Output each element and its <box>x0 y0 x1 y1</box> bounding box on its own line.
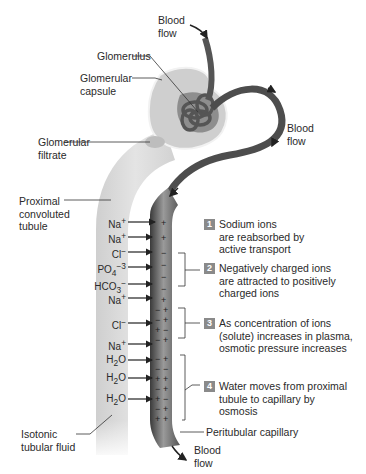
svg-text:+: + <box>161 233 166 243</box>
svg-text:−: − <box>155 404 160 414</box>
svg-text:+: + <box>163 354 168 364</box>
label-peritubular-capillary: Peritubular capillary <box>206 426 298 439</box>
svg-text:+: + <box>155 394 160 404</box>
step-2: 2Negatively charged ions are attracted t… <box>204 262 336 300</box>
svg-text:−: − <box>163 325 168 335</box>
step-text: Negatively charged ions are attracted to… <box>219 262 336 300</box>
step-text: As concentration of ions (solute) increa… <box>219 317 353 355</box>
svg-text:−: − <box>161 248 166 258</box>
ion-h2o: H2O <box>86 372 126 387</box>
step-1: 1Sodium ions are reabsorbed by active tr… <box>204 218 304 256</box>
svg-text:−: − <box>155 315 160 325</box>
svg-text:−: − <box>155 384 160 394</box>
svg-text:+: + <box>163 305 168 315</box>
ion-na: Na+ <box>86 216 126 230</box>
step-text: Water moves from proximal tubule to capi… <box>219 380 347 418</box>
label-glomerular-filtrate: Glomerular filtrate <box>38 136 90 161</box>
label-glomerular-capsule: Glomerular capsule <box>80 72 132 97</box>
ion-h2o: H2O <box>86 393 126 408</box>
svg-text:−: − <box>163 364 168 374</box>
label-proximal-tubule: Proximal convoluted tubule <box>19 195 70 233</box>
ion-na: Na+ <box>86 338 126 352</box>
svg-text:−: − <box>163 394 168 404</box>
svg-text:−: − <box>155 354 160 364</box>
svg-text:+: + <box>161 218 166 228</box>
ion-po4: PO4−3 <box>86 261 126 279</box>
svg-text:−: − <box>155 335 160 345</box>
svg-text:−: − <box>155 364 160 374</box>
ion-na: Na+ <box>86 292 126 306</box>
svg-text:−: − <box>161 284 166 294</box>
step-badge: 1 <box>204 219 215 230</box>
ion-cl: Cl− <box>86 317 126 331</box>
step-3: 3As concentration of ions (solute) incre… <box>204 317 353 355</box>
svg-text:+: + <box>155 414 160 424</box>
ion-cl: Cl− <box>86 246 126 260</box>
step-text: Sodium ions are reabsorbed by active tra… <box>219 218 304 256</box>
svg-text:−: − <box>161 260 166 270</box>
svg-text:+: + <box>163 414 168 424</box>
svg-text:+: + <box>163 384 168 394</box>
ion-h2o: H2O <box>86 354 126 369</box>
svg-text:+: + <box>163 335 168 345</box>
svg-text:+: + <box>163 315 168 325</box>
svg-text:+: + <box>155 325 160 335</box>
svg-text:−: − <box>155 305 160 315</box>
label-blood-flow-top: Blood flow <box>158 14 185 39</box>
label-blood-flow-bottom: Blood flow <box>194 444 221 469</box>
svg-text:+: + <box>155 374 160 384</box>
label-blood-flow-right: Blood flow <box>287 122 314 147</box>
svg-text:+: + <box>163 404 168 414</box>
step-4: 4Water moves from proximal tubule to cap… <box>204 380 347 418</box>
step-badge: 2 <box>204 263 215 274</box>
step-badge: 4 <box>204 381 215 392</box>
svg-text:−: − <box>161 272 166 282</box>
svg-text:+: + <box>163 374 168 384</box>
step-brackets <box>178 253 200 420</box>
label-isotonic-fluid: Isotonic tubular fluid <box>21 428 75 453</box>
step-badge: 3 <box>204 318 215 329</box>
ion-na: Na+ <box>86 231 126 245</box>
label-glomerulus: Glomerulus <box>97 50 151 63</box>
svg-text:+: + <box>161 295 166 305</box>
